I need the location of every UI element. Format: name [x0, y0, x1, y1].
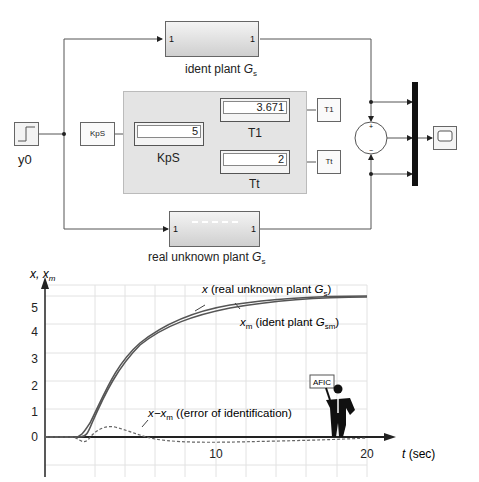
tt-display-label: Tt	[249, 177, 260, 191]
svg-text:x, xm: x, xm	[29, 267, 56, 283]
svg-text:3: 3	[31, 352, 38, 366]
svg-text:AFIC: AFIC	[313, 378, 331, 387]
step-label: y0	[18, 152, 32, 167]
svg-text:−: −	[369, 147, 373, 154]
svg-text:20: 20	[360, 447, 374, 461]
t1-display[interactable]: 3.671	[220, 98, 290, 122]
real-plant-label: real unknown plant Gs	[148, 250, 265, 266]
tt-from-block[interactable]: Tt	[317, 150, 341, 174]
svg-text:+: +	[369, 123, 373, 130]
step-icon	[15, 123, 38, 145]
t1-from-block[interactable]: T1	[317, 98, 341, 122]
scope-block[interactable]	[433, 126, 457, 150]
ident-plant-block[interactable]: 1 1	[165, 21, 259, 57]
svg-text:1: 1	[31, 405, 38, 419]
ident-plant-label: ident plant Gs	[185, 62, 257, 78]
error-curve	[45, 427, 367, 443]
svg-text:0: 0	[31, 430, 38, 444]
t1-display-label: T1	[248, 126, 262, 140]
block-dash-decoration	[192, 221, 238, 223]
svg-text:xm (ident plant Gsm): xm (ident plant Gsm)	[239, 316, 339, 331]
kps-display[interactable]: 5	[134, 122, 204, 146]
scope-icon	[434, 127, 456, 149]
step-block[interactable]	[14, 122, 39, 146]
kps-from-block[interactable]: KpS	[80, 122, 115, 146]
kps-display-label: KpS	[157, 151, 180, 165]
mux-bar	[412, 82, 418, 186]
real-plant-block[interactable]: 1 1	[169, 211, 260, 247]
svg-text:t (sec): t (sec)	[402, 447, 435, 461]
svg-text:10: 10	[209, 447, 223, 461]
svg-text:5: 5	[31, 301, 38, 315]
simulink-diagram: + − y0 1 1 ident plant Gs KpS 5 KpS 3.67…	[0, 0, 479, 250]
response-chart: 0 1 2 3 4 5 10 20 x, xm t (sec) x (real …	[0, 265, 479, 482]
svg-text:4: 4	[31, 325, 38, 339]
tt-display[interactable]: 2	[220, 150, 290, 174]
chart-svg: 0 1 2 3 4 5 10 20 x, xm t (sec) x (real …	[0, 265, 479, 482]
svg-text:2: 2	[31, 379, 38, 393]
afic-presenter-figure: AFIC	[310, 375, 355, 437]
